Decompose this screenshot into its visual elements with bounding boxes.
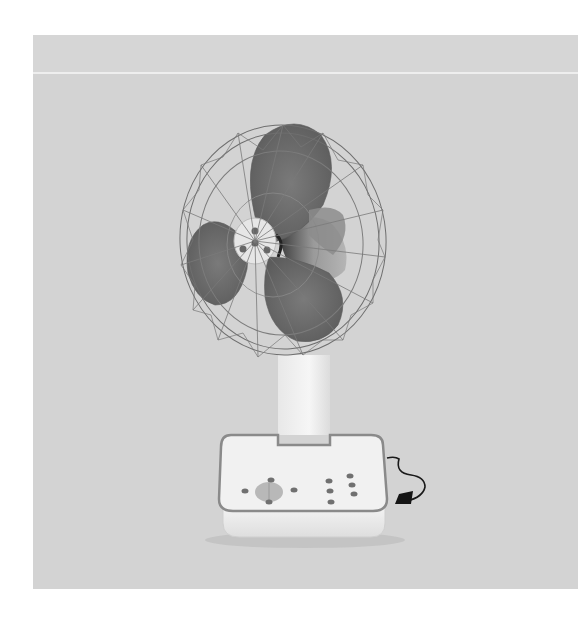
button (242, 489, 249, 494)
power-cord (387, 457, 425, 504)
button (266, 500, 273, 505)
plug (395, 491, 413, 504)
fan-neck (278, 355, 330, 435)
button (351, 492, 358, 497)
button (326, 479, 333, 484)
button (327, 489, 334, 494)
button (268, 478, 275, 483)
fan-base (219, 435, 387, 537)
button (328, 500, 335, 505)
photo-frame: Desk fan with three grey blades, wire ca… (33, 35, 578, 589)
desk-fan (33, 35, 578, 589)
button (347, 474, 354, 479)
button (291, 488, 298, 493)
button (349, 483, 356, 488)
